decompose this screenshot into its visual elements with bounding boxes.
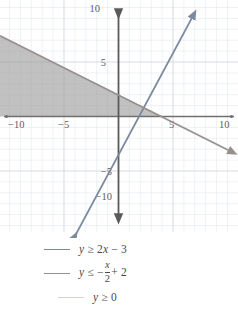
svg-text:10: 10 [90, 3, 101, 14]
legend-1-numerator: x [105, 260, 110, 271]
legend-2-lhs: y [93, 291, 98, 303]
x-axis-left-endpoint [5, 115, 8, 118]
x-axis-right-endpoint [230, 115, 233, 118]
legend-1-fraction: x2 [105, 260, 110, 284]
legend-swatch-line-3 [58, 297, 84, 298]
legend-0-operator: ≥ [87, 243, 94, 255]
legend-swatch-line-2 [44, 273, 70, 274]
legend-label-1: y ≤ −x2+ 2 [79, 261, 127, 285]
svg-text:−10: −10 [8, 119, 24, 130]
legend-item-1[interactable]: y ≤ −x2+ 2 [44, 262, 194, 284]
legend-1-sign: − [97, 266, 104, 278]
legend-2-value: 0 [111, 291, 117, 303]
svg-text:5: 5 [101, 57, 106, 68]
legend-1-denominator: 2 [105, 274, 110, 285]
legend-item-0[interactable]: y ≥ 2x − 3 [44, 238, 194, 260]
legend: y ≥ 2x − 3 y ≤ −x2+ 2 y ≥ 0 [0, 236, 238, 309]
legend-0-variable: x [103, 243, 108, 255]
svg-text:−5: −5 [58, 119, 69, 130]
legend-swatch-line-1 [44, 249, 70, 250]
legend-1-tail: + 2 [111, 266, 127, 278]
legend-1-operator: ≤ [87, 266, 94, 278]
legend-label-2: y ≥ 0 [93, 291, 117, 303]
legend-label-0: y ≥ 2x − 3 [79, 243, 127, 255]
legend-1-lhs: y [79, 266, 84, 278]
svg-text:10: 10 [219, 119, 230, 130]
legend-0-constant: − 3 [111, 243, 127, 255]
legend-2-operator: ≥ [101, 291, 108, 303]
legend-0-lhs: y [79, 243, 84, 255]
legend-item-2[interactable]: y ≥ 0 [44, 286, 194, 308]
graph-svg: −10 −5 5 10 10 5 −5 −10 [0, 0, 238, 238]
coordinate-plane-chart: −10 −5 5 10 10 5 −5 −10 [0, 0, 238, 238]
